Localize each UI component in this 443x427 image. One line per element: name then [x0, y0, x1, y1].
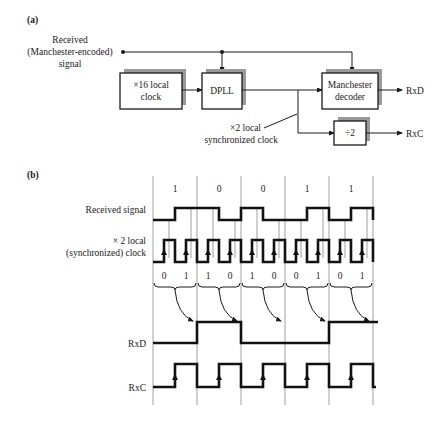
input-label-line2: (Manchester-encoded) — [27, 47, 112, 58]
clock-label-line2: (synchronized) clock — [66, 248, 146, 259]
decoder-line1: Manchester — [328, 80, 373, 90]
svg-text:0: 0 — [228, 271, 233, 281]
local-clock-block — [120, 73, 182, 109]
rxc-rising-edge-arrows — [172, 374, 354, 380]
rxc-label: RxC — [129, 383, 146, 393]
svg-text:1: 1 — [349, 184, 354, 194]
svg-text:1: 1 — [360, 271, 365, 281]
dpll-label: DPLL — [210, 86, 234, 96]
part-a-label: (a) — [27, 15, 38, 26]
half-bit-values: 0 1 1 0 1 0 0 1 0 1 — [162, 271, 365, 281]
local-clock-line1: ×16 local — [133, 80, 169, 90]
rxc-output-label: RxC — [406, 129, 423, 139]
input-label-line1: Received — [52, 35, 88, 45]
received-signal-label: Received signal — [86, 205, 147, 215]
manchester-decoder-block — [322, 73, 378, 109]
clock-label-leader — [264, 114, 297, 128]
timing-diagram: (b) 1 0 0 1 1 Received signal — [27, 170, 378, 405]
svg-text:0: 0 — [261, 184, 266, 194]
part-b-label: (b) — [27, 170, 39, 181]
svg-text:1: 1 — [184, 271, 189, 281]
local-clock-line2: clock — [141, 92, 162, 102]
svg-text:0: 0 — [217, 184, 222, 194]
bit-cell-braces — [154, 283, 372, 290]
sync-clock-label-line2: synchronized clock — [204, 135, 278, 145]
manchester-dpll-figure: (a) Received (Manchester-encoded) signal… — [0, 0, 443, 427]
svg-text:1: 1 — [206, 271, 211, 281]
block-diagram: (a) Received (Manchester-encoded) signal… — [27, 15, 424, 145]
rxd-output-label: RxD — [406, 86, 424, 96]
clock-label-line1: × 2 local — [113, 236, 147, 246]
svg-text:1: 1 — [173, 184, 178, 194]
received-signal-waveform — [153, 208, 373, 220]
rxd-label: RxD — [128, 339, 146, 349]
svg-text:1: 1 — [316, 271, 321, 281]
bit-values: 1 0 0 1 1 — [173, 184, 354, 194]
svg-text:0: 0 — [338, 271, 343, 281]
decoder-line2: decoder — [335, 92, 366, 102]
decode-arrows — [175, 290, 369, 321]
svg-text:0: 0 — [162, 271, 167, 281]
svg-text:0: 0 — [272, 271, 277, 281]
sync-clock-label-line1: ×2 local — [230, 123, 261, 133]
svg-text:1: 1 — [305, 184, 310, 194]
rxd-waveform — [153, 322, 378, 343]
rxc-waveform — [153, 364, 376, 387]
svg-text:0: 0 — [294, 271, 299, 281]
input-label-line3: signal — [59, 59, 82, 69]
svg-text:1: 1 — [250, 271, 255, 281]
received-sample-ticks — [169, 208, 367, 258]
divider-label: ÷2 — [345, 128, 355, 138]
